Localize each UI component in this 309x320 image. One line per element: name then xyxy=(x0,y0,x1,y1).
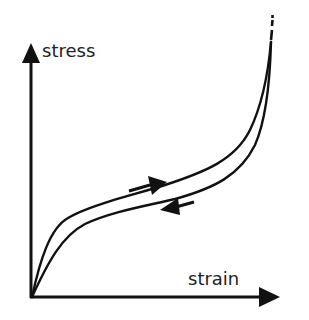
loading-direction-arrow-icon xyxy=(129,176,167,195)
stress-strain-diagram: stress strain xyxy=(0,0,309,320)
y-axis-label: stress xyxy=(42,40,95,61)
dashed-extension xyxy=(271,15,273,40)
x-axis xyxy=(30,287,280,307)
y-axis-arrow-icon xyxy=(22,43,40,63)
x-axis-label: strain xyxy=(188,268,239,289)
x-axis-arrow-icon xyxy=(259,287,280,307)
y-axis xyxy=(22,43,40,298)
unloading-curve xyxy=(32,42,271,297)
